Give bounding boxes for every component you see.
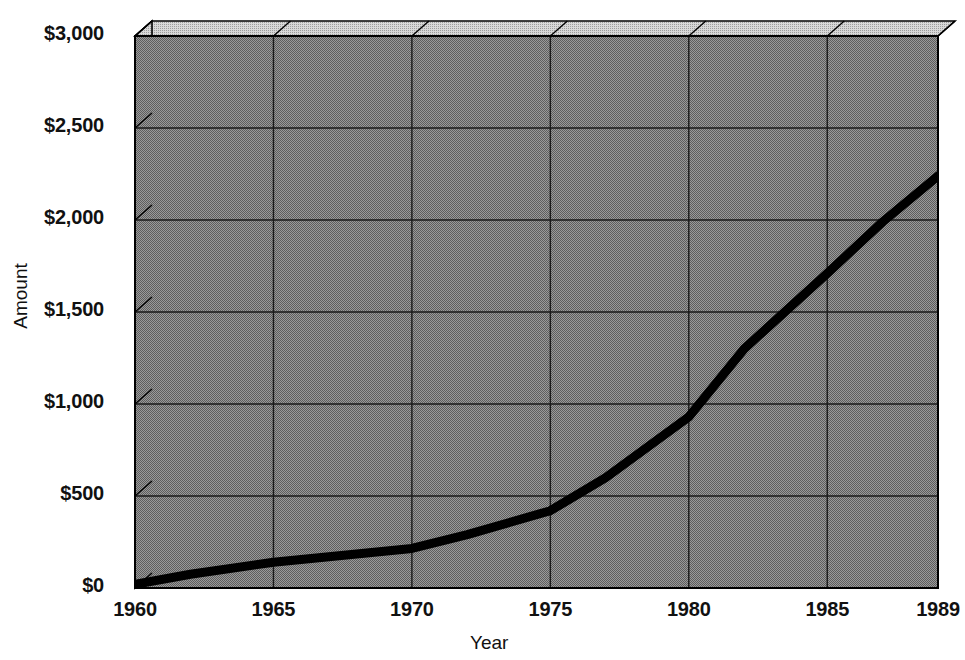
box-top-face bbox=[135, 21, 955, 36]
chart-plot-area bbox=[0, 0, 965, 660]
chart-container: Amount Year $0$500$1,000$1,500$2,000$2,5… bbox=[0, 0, 965, 660]
